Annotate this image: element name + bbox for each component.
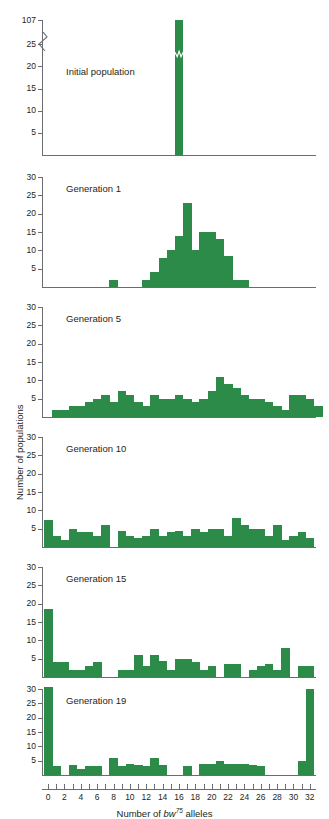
y-tick-label: 25 <box>6 191 36 200</box>
y-tick-label: 30 <box>6 173 36 182</box>
y-tick-label: 25 <box>6 321 36 330</box>
y-tick-label: 5 <box>6 654 36 663</box>
x-tick <box>122 784 123 789</box>
y-tick-label: 5 <box>6 128 36 137</box>
y-tick-label: 20 <box>6 62 36 71</box>
x-axis-line <box>42 789 316 790</box>
y-tick-label: 10 <box>6 636 36 645</box>
panel-baseline <box>42 155 316 156</box>
x-axis-title-suffix: alleles <box>183 808 213 819</box>
panel-y-axis <box>42 307 43 417</box>
y-tick-label: 30 <box>6 303 36 312</box>
y-tick-label: 20 <box>6 469 36 478</box>
histogram-bar <box>232 664 241 677</box>
panel-baseline <box>42 417 316 418</box>
y-tick <box>38 195 42 196</box>
y-tick <box>38 380 42 381</box>
y-tick-label: 15 <box>6 728 36 737</box>
histogram-bar <box>93 766 102 775</box>
y-tick <box>38 529 42 530</box>
histogram-bar <box>93 662 102 677</box>
y-tick <box>38 214 42 215</box>
histogram-bar <box>109 280 118 287</box>
panel-y-axis <box>42 437 43 547</box>
y-tick <box>38 325 42 326</box>
y-tick <box>38 604 42 605</box>
x-tick <box>130 784 131 789</box>
y-tick <box>38 111 42 112</box>
y-tick <box>38 746 42 747</box>
y-tick-label: 10 <box>6 742 36 751</box>
y-tick-label: 15 <box>6 358 36 367</box>
y-tick-label: 30 <box>6 563 36 572</box>
panel-title: Generation 1 <box>66 183 121 194</box>
histogram-bar <box>208 666 217 677</box>
x-tick <box>310 784 311 789</box>
y-tick-label: 25 <box>6 451 36 460</box>
y-tick-label: 20 <box>6 209 36 218</box>
x-axis-title-prefix: Number of <box>117 808 164 819</box>
panel-y-axis <box>42 567 43 677</box>
histogram-bar <box>52 766 61 775</box>
x-tick <box>48 784 49 789</box>
x-axis-title-gene: bw75 <box>164 808 183 819</box>
x-tick <box>64 784 65 789</box>
x-tick <box>114 784 115 789</box>
x-tick <box>163 784 164 789</box>
y-tick <box>38 250 42 251</box>
y-tick-label: 25 <box>6 581 36 590</box>
histogram-bar <box>101 525 110 547</box>
x-tick <box>302 784 303 789</box>
panel-title: Generation 19 <box>66 695 126 706</box>
histogram-bar <box>257 766 266 775</box>
x-tick <box>212 784 213 789</box>
x-tick <box>154 784 155 789</box>
y-tick-label: 10 <box>6 506 36 515</box>
x-tick <box>293 784 294 789</box>
y-tick <box>38 718 42 719</box>
y-tick-label: 10 <box>6 106 36 115</box>
x-tick <box>56 784 57 789</box>
y-axis-break-symbol <box>36 32 50 52</box>
histogram-bar <box>159 765 168 775</box>
x-tick <box>138 784 139 789</box>
y-tick-label: 30 <box>6 685 36 694</box>
y-tick <box>38 510 42 511</box>
x-tick <box>73 784 74 789</box>
x-tick <box>220 784 221 789</box>
y-tick <box>38 362 42 363</box>
y-tick <box>38 474 42 475</box>
y-tick <box>38 689 42 690</box>
y-tick-label: 10 <box>6 246 36 255</box>
x-tick <box>269 784 270 789</box>
x-axis-title: Number of bw75 alleles <box>0 807 329 819</box>
x-tick <box>97 784 98 789</box>
y-axis-break-top-label: 107 <box>6 16 36 25</box>
y-tick-label: 15 <box>6 84 36 93</box>
y-tick-label: 20 <box>6 599 36 608</box>
panel-title: Generation 15 <box>66 573 126 584</box>
x-tick <box>253 784 254 789</box>
histogram-bar <box>306 666 315 677</box>
histogram-bar <box>314 406 323 417</box>
y-tick-label: 5 <box>6 394 36 403</box>
y-tick <box>38 133 42 134</box>
y-tick <box>38 89 42 90</box>
x-tick <box>277 784 278 789</box>
y-tick <box>38 659 42 660</box>
panel-baseline <box>42 547 316 548</box>
y-tick <box>38 344 42 345</box>
panel-baseline <box>42 287 316 288</box>
y-tick <box>38 307 42 308</box>
y-tick <box>38 567 42 568</box>
x-tick-label: 32 <box>300 792 320 802</box>
x-tick <box>285 784 286 789</box>
x-axis-title-superscript: 75 <box>176 807 183 814</box>
y-tick <box>38 732 42 733</box>
y-tick <box>38 177 42 178</box>
x-tick <box>187 784 188 789</box>
panel-title: Generation 10 <box>66 443 126 454</box>
y-tick <box>38 622 42 623</box>
y-tick <box>38 492 42 493</box>
